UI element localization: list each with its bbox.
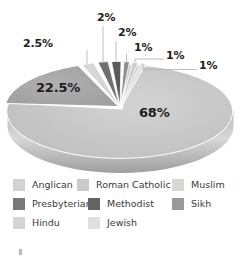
- slice-value-label-muslim: 2.5%: [23, 38, 53, 49]
- legend-swatch-presbyterian: [13, 198, 25, 210]
- legend-item-jewish[interactable]: Jewish: [88, 214, 137, 232]
- legend-item-presbyterian[interactable]: Presbyterian: [13, 195, 92, 213]
- slice-value-label-sikh: 1%: [134, 42, 152, 53]
- legend-row: Anglican Roman Catholic Muslim: [0, 176, 239, 194]
- legend-label-sikh: Sikh: [191, 199, 211, 209]
- slice-value-label-presbyterian: 2%: [97, 12, 115, 23]
- pie-slice-group: [6, 61, 233, 158]
- legend-swatch-jewish: [88, 217, 100, 229]
- legend-item-anglican[interactable]: Anglican: [13, 176, 73, 194]
- legend-label-muslim: Muslim: [191, 180, 225, 190]
- legend-label-presbyterian: Presbyterian: [32, 199, 92, 209]
- legend-label-hindu: Hindu: [32, 218, 60, 228]
- legend-label-anglican: Anglican: [32, 180, 73, 190]
- legend-item-muslim[interactable]: Muslim: [172, 176, 225, 194]
- legend-item-roman-catholic[interactable]: Roman Catholic: [77, 176, 171, 194]
- legend-label-roman-catholic: Roman Catholic: [96, 180, 171, 190]
- pie-plot-area: 68% 22.5% 2.5% 2% 2% 1% 1% 1%: [0, 0, 239, 175]
- slice-value-label-anglican: 68%: [139, 106, 170, 119]
- legend-item-methodist[interactable]: Methodist: [88, 195, 154, 213]
- legend-row: Presbyterian Methodist Sikh: [0, 195, 239, 213]
- legend-item-hindu[interactable]: Hindu: [13, 214, 60, 232]
- pie-chart-figure: 68% 22.5% 2.5% 2% 2% 1% 1% 1% Anglican R…: [0, 0, 239, 259]
- chart-legend: Anglican Roman Catholic Muslim Presbyter…: [0, 176, 239, 242]
- slice-value-label-roman-catholic: 22.5%: [36, 81, 80, 94]
- legend-label-methodist: Methodist: [107, 199, 154, 209]
- slice-value-label-methodist: 2%: [118, 27, 136, 38]
- legend-swatch-hindu: [13, 217, 25, 229]
- page-artifact-mark: [19, 249, 22, 255]
- legend-swatch-roman-catholic: [77, 179, 89, 191]
- legend-label-jewish: Jewish: [107, 218, 137, 228]
- slice-value-label-jewish: 1%: [199, 60, 217, 71]
- leader-line-hindu: [135, 59, 164, 62]
- legend-swatch-muslim: [172, 179, 184, 191]
- legend-swatch-methodist: [88, 198, 100, 210]
- legend-swatch-sikh: [172, 198, 184, 210]
- legend-row: Hindu Jewish: [0, 214, 239, 232]
- legend-swatch-anglican: [13, 179, 25, 191]
- legend-item-sikh[interactable]: Sikh: [172, 195, 211, 213]
- slice-value-label-hindu: 1%: [166, 50, 184, 61]
